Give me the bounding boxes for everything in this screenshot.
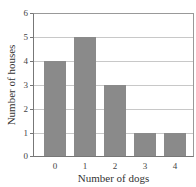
bar-chart: 6 5 4 3 2 1 0 0 1 2 3 4 Number of dogs N… xyxy=(0,0,196,187)
y-tick-label: 0 xyxy=(20,151,28,161)
bar-3-dogs xyxy=(134,133,156,156)
y-tick xyxy=(30,61,33,62)
y-tick xyxy=(30,156,33,157)
y-tick xyxy=(30,85,33,86)
y-tick-label: 2 xyxy=(20,104,28,114)
y-tick xyxy=(30,109,33,110)
bar-1-dog xyxy=(74,37,96,156)
x-axis-label: Number of dogs xyxy=(33,172,194,185)
y-tick xyxy=(30,13,33,14)
y-tick xyxy=(30,133,33,134)
y-tick-label: 1 xyxy=(20,128,28,138)
y-axis-label: Number of houses xyxy=(5,45,18,126)
bar-0-dogs xyxy=(44,61,66,156)
x-tick-label: 1 xyxy=(74,161,96,171)
y-tick xyxy=(30,37,33,38)
x-tick-label: 0 xyxy=(44,161,66,171)
y-tick-label: 6 xyxy=(20,8,28,18)
x-tick-label: 2 xyxy=(104,161,126,171)
bar-2-dogs xyxy=(104,85,126,156)
x-tick-label: 3 xyxy=(134,161,156,171)
x-tick-label: 4 xyxy=(164,161,186,171)
y-tick-label: 5 xyxy=(20,32,28,42)
y-tick-label: 3 xyxy=(20,80,28,90)
y-tick-label: 4 xyxy=(20,56,28,66)
bar-4-dogs xyxy=(164,133,186,156)
